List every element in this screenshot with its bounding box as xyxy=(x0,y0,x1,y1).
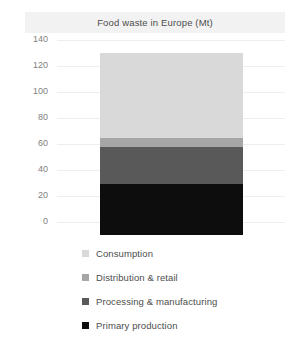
legend-swatch-icon xyxy=(82,250,89,257)
y-tick-label-60: 60 xyxy=(8,139,48,148)
legend-swatch-icon xyxy=(82,298,89,305)
stacked-bar-europe[interactable] xyxy=(100,53,243,235)
bar-segment-primary-production[interactable] xyxy=(100,184,243,235)
y-tick-label-140: 140 xyxy=(8,35,48,44)
chart-title-band: Food waste in Europe (Mt) xyxy=(25,12,285,33)
legend-item-distribution-retail[interactable]: Distribution & retail xyxy=(82,267,297,288)
legend-item-label: Processing & manufacturing xyxy=(96,296,217,307)
bar-segment-distribution-retail[interactable] xyxy=(100,138,243,147)
y-tick-label-120: 120 xyxy=(8,61,48,70)
legend-swatch-icon xyxy=(82,274,89,281)
chart-legend: ConsumptionDistribution & retailProcessi… xyxy=(82,243,297,339)
bar-segment-consumption[interactable] xyxy=(100,53,243,138)
legend-item-consumption[interactable]: Consumption xyxy=(82,243,297,264)
legend-item-processing-manufacturing[interactable]: Processing & manufacturing xyxy=(82,291,297,312)
legend-swatch-icon xyxy=(82,322,89,329)
page-title: Food waste in Europe (Mt) xyxy=(97,17,213,28)
y-tick-label-40: 40 xyxy=(8,165,48,174)
legend-item-label: Distribution & retail xyxy=(96,272,178,283)
legend-item-label: Consumption xyxy=(96,248,153,259)
y-tick-label-20: 20 xyxy=(8,191,48,200)
bar-segment-processing-manufacturing[interactable] xyxy=(100,147,243,185)
plot-area: 020406080100120140 xyxy=(0,40,307,235)
legend-item-label: Primary production xyxy=(96,320,178,331)
chart-card: Food waste in Europe (Mt) 02040608010012… xyxy=(0,0,307,341)
y-tick-label-0: 0 xyxy=(8,217,48,226)
y-tick-label-100: 100 xyxy=(8,87,48,96)
legend-item-primary-production[interactable]: Primary production xyxy=(82,315,297,336)
gridline-140 xyxy=(57,40,285,41)
y-tick-label-80: 80 xyxy=(8,113,48,122)
